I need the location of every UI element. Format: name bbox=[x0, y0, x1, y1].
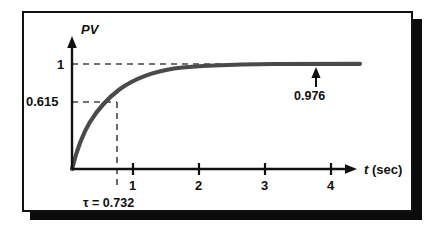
tau-annotation-label: τ = 0.732 bbox=[83, 197, 134, 210]
y-axis-arrowhead bbox=[67, 36, 77, 48]
callout-value-label: 0.976 bbox=[294, 90, 325, 103]
x-tick-label-2: 2 bbox=[195, 179, 202, 192]
x-tick-label-1: 1 bbox=[129, 179, 136, 192]
y-axis-label: PV bbox=[81, 23, 98, 36]
chart-plot-area bbox=[24, 13, 415, 214]
x-tick-label-3: 3 bbox=[261, 179, 268, 192]
x-axis-arrowhead bbox=[345, 164, 357, 174]
figure-canvas: PV 1 0.615 1 2 3 4 t (sec) τ = 0.732 0.9… bbox=[0, 0, 436, 233]
y-tick-label-1: 1 bbox=[57, 58, 64, 71]
x-axis-label-unit: (sec) bbox=[368, 162, 402, 177]
figure-frame: PV 1 0.615 1 2 3 4 t (sec) τ = 0.732 0.9… bbox=[22, 11, 413, 212]
x-axis-label: t (sec) bbox=[364, 163, 402, 176]
y-tick-label-0615: 0.615 bbox=[26, 95, 59, 108]
callout-arrow-head bbox=[311, 67, 320, 78]
x-tick-label-4: 4 bbox=[327, 179, 334, 192]
